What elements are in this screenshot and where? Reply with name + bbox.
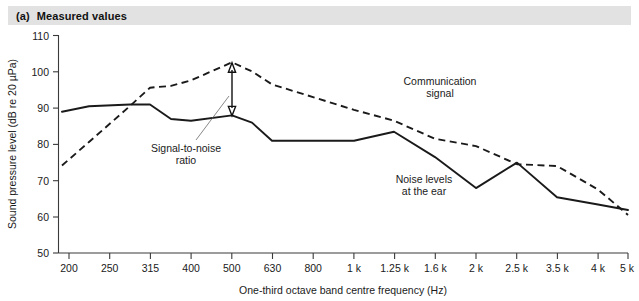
x-tick-label-3.5k: 3.5 k bbox=[546, 262, 570, 274]
snr-annotation-line1: Signal-to-noise bbox=[151, 142, 221, 154]
y-tick-label-50: 50 bbox=[37, 247, 49, 259]
x-axis-title: One-third octave band centre frequency (… bbox=[239, 284, 447, 296]
y-axis-title: Sound pressure level (dB re 20 µPa) bbox=[6, 59, 18, 229]
y-tick-label-110: 110 bbox=[32, 30, 49, 42]
snr-leader-line bbox=[196, 96, 229, 140]
y-tick-label-90: 90 bbox=[37, 102, 49, 114]
noise-levels-line1: Noise levels bbox=[396, 173, 453, 185]
x-tick-label-800: 800 bbox=[304, 262, 322, 274]
snr-annotation-line2: ratio bbox=[176, 154, 197, 166]
annotation-communication-signal: Communication signal bbox=[404, 75, 477, 99]
x-tick-label-2.5k: 2.5 k bbox=[505, 262, 529, 274]
series-communication-signal bbox=[62, 62, 628, 215]
x-tick-label-250: 250 bbox=[101, 262, 119, 274]
series-noise-levels bbox=[62, 105, 628, 211]
y-tick-label-60: 60 bbox=[37, 211, 49, 223]
noise-levels-line2: at the ear bbox=[402, 185, 447, 197]
x-tick-label-630: 630 bbox=[264, 262, 282, 274]
figure-caption-bar: (a) Measured values bbox=[8, 6, 631, 25]
y-axis: 110 100 90 80 70 60 50 Sound pressure le… bbox=[6, 30, 59, 260]
x-tick-label-1k: 1 k bbox=[347, 262, 362, 274]
communication-signal-line2: signal bbox=[426, 87, 453, 99]
x-axis: 200 250 315 400 500 630 800 1 k 1.25 k 1… bbox=[59, 253, 635, 296]
x-tick-label-5k: 5 k bbox=[620, 262, 635, 274]
y-tick-label-100: 100 bbox=[31, 66, 49, 78]
y-tick-label-70: 70 bbox=[37, 175, 49, 187]
x-tick-label-500: 500 bbox=[223, 262, 241, 274]
figure-caption-label: (a) bbox=[16, 10, 30, 22]
x-tick-label-2k: 2 k bbox=[469, 262, 484, 274]
x-tick-label-1.6k: 1.6 k bbox=[424, 262, 448, 274]
figure-measured-values: (a) Measured values 110 100 90 80 70 60 … bbox=[0, 0, 639, 301]
chart-plot-area: 110 100 90 80 70 60 50 Sound pressure le… bbox=[0, 25, 639, 301]
x-tick-label-200: 200 bbox=[60, 262, 78, 274]
figure-caption-text: Measured values bbox=[37, 10, 127, 22]
y-tick-label-80: 80 bbox=[37, 138, 49, 150]
data-series-group bbox=[62, 62, 628, 215]
communication-signal-line1: Communication bbox=[404, 75, 477, 87]
chart-svg: 110 100 90 80 70 60 50 Sound pressure le… bbox=[0, 25, 639, 301]
annotation-noise-levels: Noise levels at the ear bbox=[396, 173, 453, 197]
x-tick-label-315: 315 bbox=[142, 262, 160, 274]
x-tick-label-1.25k: 1.25 k bbox=[380, 262, 409, 274]
x-tick-label-4k: 4 k bbox=[591, 262, 606, 274]
x-tick-label-400: 400 bbox=[182, 262, 200, 274]
